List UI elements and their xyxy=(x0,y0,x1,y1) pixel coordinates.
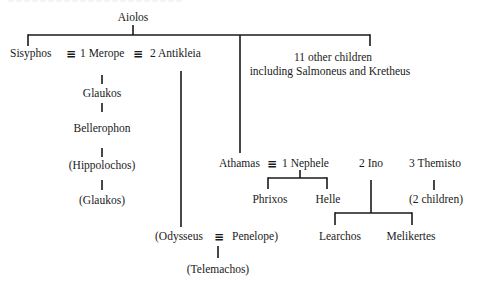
marriage-symbol: ≡ xyxy=(133,48,143,60)
marriage-symbol: ≡ xyxy=(66,48,76,60)
node-antikleia: 2 Antikleia xyxy=(150,47,201,60)
node-odysseus: (Odysseus xyxy=(155,230,203,243)
node-glaukos-ii: (Glaukos) xyxy=(79,194,125,207)
node-learchos: Learchos xyxy=(319,230,361,243)
marriage-symbol: ≡ xyxy=(267,158,277,170)
node-helle: Helle xyxy=(316,193,341,206)
node-nephele: 1 Nephele xyxy=(282,157,329,170)
node-merope: 1 Merope xyxy=(80,47,124,60)
marriage-symbol: ≡ xyxy=(214,231,224,243)
node-athamas: Athamas xyxy=(219,157,260,170)
node-penelope: Penelope) xyxy=(232,230,278,243)
node-ino: 2 Ino xyxy=(359,157,383,170)
node-bellerophon: Bellerophon xyxy=(74,122,131,135)
node-melikertes: Melikertes xyxy=(386,230,435,243)
node-other-children: 11 other children xyxy=(294,51,372,64)
node-themisto-children: (2 children) xyxy=(409,193,463,206)
node-other-children-detail: including Salmoneus and Kretheus xyxy=(250,65,411,78)
node-themisto: 3 Themisto xyxy=(409,157,461,170)
node-telemachos: (Telemachos) xyxy=(187,263,249,276)
node-phrixos: Phrixos xyxy=(252,193,287,206)
node-sisyphos: Sisyphos xyxy=(10,47,52,60)
node-glaukos: Glaukos xyxy=(83,87,121,100)
node-hippolochos: (Hippolochos) xyxy=(69,159,135,172)
node-aiolos: Aiolos xyxy=(118,11,149,24)
